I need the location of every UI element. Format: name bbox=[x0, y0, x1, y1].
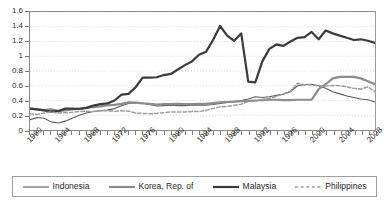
y-tick-label: 0.6 bbox=[12, 82, 23, 90]
y-tick-label: 1.2 bbox=[12, 37, 23, 45]
chart-root: 00.20.40.60.811.21.41.6 1960196419681972… bbox=[0, 0, 389, 204]
y-tick-label: 0.2 bbox=[12, 112, 23, 120]
legend-swatch-line-thick-gray bbox=[109, 183, 135, 191]
legend-label: Korea, Rep. of bbox=[139, 182, 194, 191]
y-tick-label: 1.4 bbox=[12, 22, 23, 30]
x-tick-mark bbox=[249, 131, 250, 135]
x-tick-mark bbox=[305, 131, 306, 135]
legend-label: Malaysia bbox=[243, 182, 277, 191]
series-lines bbox=[30, 12, 375, 130]
legend-label: Philippines bbox=[325, 182, 366, 191]
y-tick-label: 0.8 bbox=[12, 67, 23, 75]
series-line-korea-rep-of bbox=[30, 77, 375, 111]
legend-item[interactable]: Korea, Rep. of bbox=[109, 182, 194, 191]
legend-item[interactable]: Indonesia bbox=[23, 182, 90, 191]
legend-swatch-line-thick-dark bbox=[213, 183, 239, 191]
y-tick-label: 0 bbox=[19, 127, 23, 135]
legend-swatch-line-thin-solid bbox=[23, 183, 49, 191]
legend-item[interactable]: Philippines bbox=[295, 182, 366, 191]
x-tick-mark bbox=[107, 131, 108, 135]
x-tick-mark bbox=[164, 131, 165, 135]
series-line-malaysia bbox=[30, 26, 375, 112]
y-axis: 00.20.40.60.811.21.41.6 bbox=[0, 0, 29, 142]
x-tick-mark bbox=[50, 131, 51, 135]
y-tick-label: 1 bbox=[19, 52, 23, 60]
legend-item[interactable]: Malaysia bbox=[213, 182, 277, 191]
x-tick-mark bbox=[277, 131, 278, 135]
x-tick-mark bbox=[362, 131, 363, 135]
legend-label: Indonesia bbox=[53, 182, 90, 191]
legend-swatch-line-dashed-gray bbox=[295, 183, 321, 191]
y-tick-label: 0.4 bbox=[12, 97, 23, 105]
x-tick-mark bbox=[192, 131, 193, 135]
x-tick-mark bbox=[79, 131, 80, 135]
x-tick-mark bbox=[135, 131, 136, 135]
y-tick-label: 1.6 bbox=[12, 7, 23, 15]
plot-area bbox=[29, 11, 376, 131]
chart-legend: IndonesiaKorea, Rep. ofMalaysiaPhilippin… bbox=[12, 176, 377, 197]
x-tick-mark bbox=[334, 131, 335, 135]
x-tick-mark bbox=[220, 131, 221, 135]
